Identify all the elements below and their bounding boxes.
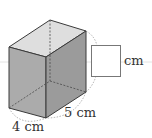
answer-unit-label: cm xyxy=(124,53,144,68)
height-arc-top xyxy=(86,31,97,46)
front-face xyxy=(9,47,46,118)
prism-diagram: cm 5 cm 4 cm xyxy=(0,0,152,138)
answer-box[interactable] xyxy=(92,46,121,77)
width-label: 5 cm xyxy=(64,105,96,120)
height-arc-bottom xyxy=(86,76,96,92)
depth-label: 4 cm xyxy=(12,119,44,134)
